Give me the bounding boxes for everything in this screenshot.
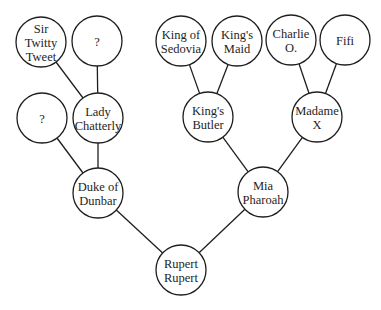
node-label: Twitty [25, 36, 58, 50]
edge-madame-x-to-mia-pharoah [278, 137, 303, 171]
node-label: ? [39, 112, 45, 126]
node-label: Madame [295, 104, 339, 118]
node-label: Rupert [164, 271, 199, 285]
node-rupert-rupert: RupertRupert [156, 245, 206, 295]
edge-duke-of-dunbar-to-rupert-rupert [116, 210, 162, 253]
node-label: Tweet [26, 50, 57, 64]
node-label: O. [285, 41, 297, 55]
node-label: Dunbar [79, 194, 117, 208]
node-mia-pharoah: MiaPharoah [238, 167, 288, 217]
node-sir-twitty-tweet: SirTwittyTweet [16, 17, 66, 67]
node-kings-maid: King'sMaid [212, 16, 262, 66]
edge-charlie-o-to-madame-x [299, 64, 309, 94]
edge-kings-butler-to-mia-pharoah [223, 137, 248, 172]
node-unknown-top: ? [72, 16, 122, 66]
node-label: Chatterly [75, 119, 122, 133]
node-label: Butler [192, 118, 224, 132]
node-label: Charlie [273, 27, 310, 41]
node-kings-butler: King'sButler [183, 92, 233, 142]
node-label: Sir [34, 22, 49, 36]
node-king-of-sedovia: King ofSedovia [156, 16, 206, 66]
node-unknown-left: ? [17, 93, 67, 143]
node-label: Fifi [336, 34, 355, 48]
family-tree-diagram: SirTwittyTweet??LadyChatterlyDuke ofDunb… [0, 0, 381, 310]
edge-kings-maid-to-kings-butler [217, 64, 228, 93]
node-lady-chatterly: LadyChatterly [73, 93, 123, 143]
node-label: King's [192, 104, 224, 118]
node-label: Sedovia [161, 42, 202, 56]
node-label: King of [162, 28, 201, 42]
edge-fifi-to-madame-x [326, 64, 337, 94]
edge-unknown-left-to-duke-of-dunbar [57, 138, 83, 173]
node-madame-x: MadameX [292, 92, 342, 142]
node-label: Duke of [78, 180, 119, 194]
edge-mia-pharoah-to-rupert-rupert [199, 209, 245, 253]
node-label: ? [94, 35, 100, 49]
edge-sir-twitty-tweet-to-lady-chatterly [56, 62, 83, 98]
node-duke-of-dunbar: Duke ofDunbar [73, 168, 123, 218]
node-charlie-o: CharlieO. [266, 15, 316, 65]
node-label: Rupert [164, 257, 199, 271]
node-label: Lady [85, 105, 111, 119]
node-label: King's [221, 28, 253, 42]
node-label: Pharoah [243, 193, 285, 207]
edges-layer [56, 62, 337, 253]
node-label: Maid [224, 42, 251, 56]
node-label: X [312, 118, 321, 132]
node-label: Mia [253, 179, 274, 193]
node-fifi: Fifi [320, 15, 370, 65]
edge-king-of-sedovia-to-kings-butler [189, 65, 199, 94]
